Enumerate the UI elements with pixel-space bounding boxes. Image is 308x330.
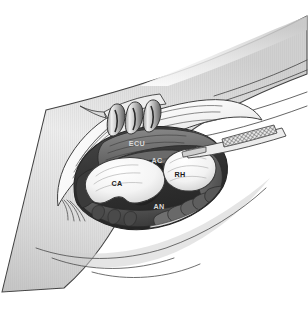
label-an: AN <box>153 202 164 211</box>
surgical-illustration-figure: ECU AC CA RH AN <box>0 0 308 330</box>
anatomy-illustration-canvas: ECU AC CA RH AN <box>0 0 308 330</box>
label-ecu: ECU <box>129 139 145 148</box>
label-ca: CA <box>111 179 122 188</box>
label-rh: RH <box>174 170 185 179</box>
label-ac: AC <box>151 156 162 165</box>
